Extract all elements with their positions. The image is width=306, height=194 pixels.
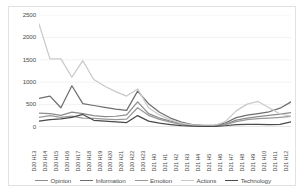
chart-container: 05001000150020002500 D20 H13D20 H14D20 H… [8, 6, 296, 186]
x-axis-tick: D21 H10 [261, 150, 266, 171]
x-axis-tick: D20 H20 [108, 150, 113, 171]
x-axis-tick-labels: D20 H13D20 H14D20 H15D20 H16D20 H17D20 H… [39, 129, 291, 171]
x-axis-tick: D21 H1 [163, 153, 168, 171]
line-chart-svg [39, 15, 291, 127]
x-axis-tick: D21 H3 [185, 153, 190, 171]
x-axis-tick: D21 H12 [283, 150, 288, 171]
legend-label: Technology [241, 178, 271, 184]
x-axis-tick: D21 H5 [207, 153, 212, 171]
legend-item-opinion[interactable]: Opinion [35, 178, 71, 184]
gridlines [39, 15, 291, 105]
chart-legend: OpinionInformationEmotionActionsTechnolo… [19, 175, 287, 187]
legend-label: Emotion [150, 178, 172, 184]
y-axis-tick: 1000 [23, 79, 36, 85]
x-axis-tick: D20 H17 [75, 150, 80, 171]
x-axis-tick: D20 H13 [31, 150, 36, 171]
legend-swatch-icon [225, 180, 238, 181]
x-axis-tick: D20 H14 [42, 150, 47, 171]
legend-swatch-icon [35, 180, 48, 181]
legend-label: Opinion [51, 178, 72, 184]
x-axis-tick: D21 H6 [218, 153, 223, 171]
series-lines [39, 24, 291, 127]
x-axis-tick: D21 H0 [152, 153, 157, 171]
y-axis-tick-labels: 05001000150020002500 [9, 15, 36, 127]
x-axis-tick: D21 H8 [240, 153, 245, 171]
x-axis-tick: D20 H22 [130, 150, 135, 171]
x-axis-tick: D20 H15 [53, 150, 58, 171]
x-axis-tick: D20 H21 [119, 150, 124, 171]
x-axis-tick: D20 H19 [97, 150, 102, 171]
legend-item-information[interactable]: Information [80, 178, 125, 184]
x-axis-tick: D20 H16 [64, 150, 69, 171]
x-axis-tick: D20 H23 [141, 150, 146, 171]
legend-item-actions[interactable]: Actions [181, 178, 216, 184]
y-axis-tick: 500 [26, 101, 36, 107]
y-axis-tick: 0 [33, 124, 36, 130]
y-axis-tick: 1500 [23, 57, 36, 63]
series-line-actions [39, 24, 291, 126]
x-axis-tick: D21 H4 [196, 153, 201, 171]
legend-swatch-icon [80, 180, 93, 181]
x-axis-tick: D21 H2 [174, 153, 179, 171]
legend-item-emotion[interactable]: Emotion [135, 178, 173, 184]
legend-label: Information [96, 178, 126, 184]
legend-swatch-icon [135, 180, 148, 181]
x-axis-tick: D21 H7 [229, 153, 234, 171]
x-axis-tick: D21 H9 [251, 153, 256, 171]
x-axis-tick: D20 H18 [86, 150, 91, 171]
legend-item-technology[interactable]: Technology [225, 178, 271, 184]
legend-label: Actions [197, 178, 217, 184]
y-axis-tick: 2500 [23, 12, 36, 18]
y-axis-tick: 2000 [23, 34, 36, 40]
x-axis-tick: D21 H11 [272, 151, 277, 171]
legend-swatch-icon [181, 180, 194, 181]
plot-area [39, 15, 291, 127]
